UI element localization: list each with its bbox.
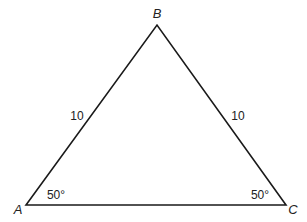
triangle-diagram: B A C 10 10 50° 50° [0,0,307,222]
angle-label-a: 50° [47,188,65,202]
vertex-label-c: C [288,202,298,217]
vertex-label-a: A [13,202,23,217]
vertex-label-b: B [153,6,162,21]
triangle-abc [26,25,286,205]
side-label-ab: 10 [70,109,84,123]
angle-label-c: 50° [251,188,269,202]
side-label-bc: 10 [231,109,245,123]
